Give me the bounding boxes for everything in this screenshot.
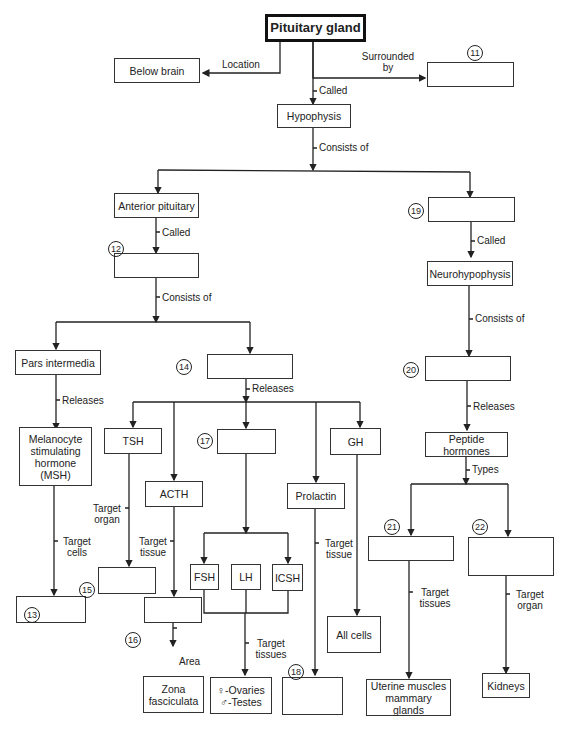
node-neurohypophysis: Neurohypophysis	[427, 261, 513, 286]
node-gh: GH	[330, 428, 381, 455]
node-blank-14	[207, 354, 293, 379]
node-blank-19	[428, 197, 515, 222]
pituitary-concept-map: Pituitary gland Below brain Hypophysis A…	[0, 0, 568, 733]
edge-label-target-organ: Target organ	[512, 589, 548, 611]
node-pars-intermedia: Pars intermedia	[15, 350, 101, 375]
number-badge-19: 19	[408, 203, 424, 219]
node-msh: Melanocyte stimulating hormone (MSH)	[19, 427, 92, 486]
node-blank-15	[98, 567, 156, 594]
edge-label-consists-of: Consists of	[319, 142, 368, 153]
node-fsh: FSH	[190, 564, 219, 590]
number-badge-13: 13	[24, 607, 40, 623]
number-badge-22: 22	[472, 519, 488, 535]
number-badge-14: 14	[176, 359, 192, 375]
node-ovaries-testes: ♀-Ovaries ♂-Testes	[210, 677, 272, 714]
number-badge-16: 16	[125, 632, 141, 648]
number-badge-15: 15	[79, 582, 95, 598]
node-prolactin: Prolactin	[287, 483, 345, 509]
node-lh: LH	[231, 564, 261, 590]
number-badge-20: 20	[403, 362, 419, 378]
edge-label-called: Called	[162, 227, 190, 238]
node-pituitary-gland: Pituitary gland	[265, 14, 366, 42]
edge-label-target-tissue: Target tissue	[321, 538, 357, 560]
node-blank-11	[427, 62, 514, 87]
edge-label-called: Called	[477, 235, 505, 246]
node-zona-fasciculata: Zona fasciculata	[143, 676, 204, 713]
number-badge-17: 17	[197, 433, 213, 449]
number-badge-18: 18	[288, 664, 304, 680]
edge-label-target-tissue: Target tissue	[136, 536, 170, 558]
edge-label-area: Area	[179, 656, 200, 667]
edge-label-releases: Releases	[62, 395, 104, 406]
node-blank-21	[368, 536, 454, 561]
edge-label-types: Types	[472, 464, 499, 475]
node-anterior-pituitary: Anterior pituitary	[114, 193, 199, 218]
node-blank-12	[114, 253, 199, 278]
edge-label-target-tissues: Target tissues	[251, 638, 291, 660]
node-all-cells: All cells	[327, 616, 381, 653]
edge-label-surrounded-by: Surrounded by	[358, 51, 418, 73]
node-below-brain: Below brain	[114, 58, 200, 83]
edge-label-location: Location	[222, 59, 260, 70]
node-blank-16	[144, 597, 202, 623]
edge-label-target-organ: Target organ	[90, 503, 124, 525]
number-badge-11: 11	[467, 45, 483, 61]
node-tsh: TSH	[104, 428, 162, 454]
node-acth: ACTH	[145, 481, 203, 507]
node-kidneys: Kidneys	[482, 673, 530, 698]
node-uterine-mammary: Uterine muscles mammary glands	[366, 679, 451, 716]
node-icsh: ICSH	[272, 564, 303, 591]
node-blank-18	[282, 677, 343, 715]
node-hypophysis: Hypophysis	[277, 104, 351, 128]
edge-label-target-cells: Target cells	[60, 536, 94, 558]
edge-label-releases: Releases	[473, 401, 515, 412]
node-blank-17	[217, 429, 276, 454]
edge-label-called: Called	[319, 85, 347, 96]
edge-label-target-tissues: Target tissues	[415, 587, 455, 609]
node-blank-22	[468, 537, 554, 576]
edge-label-consists-of: Consists of	[475, 313, 524, 324]
node-peptide-hormones: Peptide hormones	[425, 432, 508, 457]
node-blank-20	[425, 356, 511, 381]
number-badge-21: 21	[384, 519, 400, 535]
edge-label-releases: Releases	[252, 383, 294, 394]
edge-label-consists-of: Consists of	[162, 292, 211, 303]
number-badge-12: 12	[108, 241, 124, 257]
